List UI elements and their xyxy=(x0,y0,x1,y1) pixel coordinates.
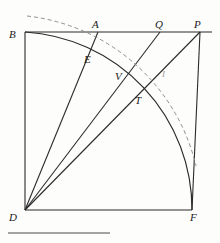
right-side-PF xyxy=(192,32,200,210)
ray-DQ xyxy=(25,32,160,210)
point-label-F: F xyxy=(190,212,197,223)
geometry-canvas xyxy=(0,0,220,243)
point-label-D: D xyxy=(9,212,17,223)
solid-quarter-arc-BF xyxy=(25,32,192,210)
geometric-figure: B A Q P E V I T D F xyxy=(0,0,220,243)
point-label-Q: Q xyxy=(155,19,163,30)
point-label-V: V xyxy=(115,71,122,82)
point-label-B: B xyxy=(9,29,16,40)
point-label-T: T xyxy=(135,95,141,106)
point-label-P: P xyxy=(194,19,201,30)
point-label-I: I xyxy=(162,69,165,80)
ray-DP xyxy=(25,32,200,210)
point-label-A: A xyxy=(92,19,99,30)
point-label-E: E xyxy=(84,54,91,65)
